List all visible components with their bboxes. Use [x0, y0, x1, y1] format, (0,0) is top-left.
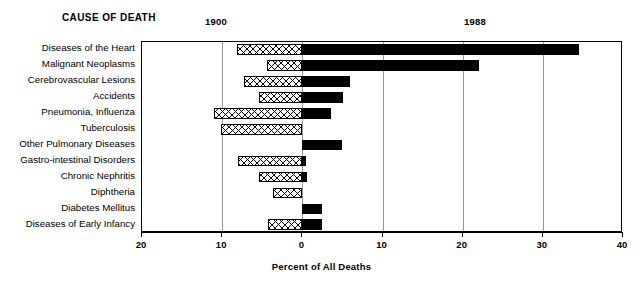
bar-1988 [302, 108, 331, 119]
x-tick [542, 232, 543, 237]
category-label: Diseases of the Heart [1, 43, 141, 53]
bar-1988 [302, 172, 307, 183]
chart-row [142, 90, 621, 106]
bar-1988 [302, 219, 321, 230]
chart-row [142, 138, 621, 154]
bar-1900 [273, 188, 302, 199]
bar-1988 [302, 60, 479, 71]
bar-1900 [238, 156, 302, 167]
mortality-causes-chart: CAUSE OF DEATH 1900 1988 Percent of All … [0, 0, 643, 284]
category-label: Diseases of Early Infancy [1, 219, 141, 229]
bar-1900 [259, 92, 302, 103]
bar-1900 [237, 44, 302, 55]
chart-row [142, 201, 621, 217]
chart-row [142, 122, 621, 138]
x-tick-label: 30 [537, 239, 548, 250]
category-label: Accidents [1, 91, 141, 101]
category-label: Other Pulmonary Diseases [1, 139, 141, 149]
bar-1988 [302, 156, 306, 167]
x-tick-label: 20 [136, 239, 147, 250]
bar-1988 [302, 140, 341, 151]
x-tick [301, 232, 302, 237]
x-tick-label: 40 [617, 239, 628, 250]
x-tick-label: 0 [299, 239, 304, 250]
category-label: Chronic Nephritis [1, 171, 141, 181]
x-tick [221, 232, 222, 237]
bar-1900 [259, 172, 302, 183]
bar-1900 [221, 124, 302, 135]
category-label: Pneumonia, Influenza [1, 107, 141, 117]
x-tick-label: 10 [376, 239, 387, 250]
category-label: Gastro-intestinal Disorders [1, 155, 141, 165]
x-tick-label: 10 [216, 239, 227, 250]
x-tick-label: 20 [456, 239, 467, 250]
bar-1988 [302, 92, 343, 103]
bar-1900 [214, 108, 302, 119]
category-label: Malignant Neoplasms [1, 59, 141, 69]
series-label-1900: 1900 [205, 16, 227, 27]
bar-1988 [302, 204, 321, 215]
chart-row [142, 217, 621, 233]
bar-1900 [267, 60, 302, 71]
series-label-1988: 1988 [464, 16, 486, 27]
category-label: Diphtheria [1, 187, 141, 197]
bar-1988 [302, 44, 579, 55]
x-tick [462, 232, 463, 237]
chart-row [142, 42, 621, 58]
x-tick [382, 232, 383, 237]
category-label: Diabetes Mellitus [1, 203, 141, 213]
chart-row [142, 58, 621, 74]
bar-1900 [268, 219, 302, 230]
chart-row [142, 153, 621, 169]
x-tick [622, 232, 623, 237]
category-label: Tuberculosis [1, 123, 141, 133]
chart-row [142, 106, 621, 122]
plot-area [141, 41, 622, 232]
x-axis-title: Percent of All Deaths [0, 261, 643, 272]
chart-row [142, 169, 621, 185]
bar-1988 [302, 76, 349, 87]
bar-1900 [244, 76, 303, 87]
chart-row [142, 74, 621, 90]
x-tick [141, 232, 142, 237]
category-label: Cerebrovascular Lesions [1, 75, 141, 85]
chart-header-cause-of-death: CAUSE OF DEATH [62, 12, 156, 23]
chart-row [142, 185, 621, 201]
